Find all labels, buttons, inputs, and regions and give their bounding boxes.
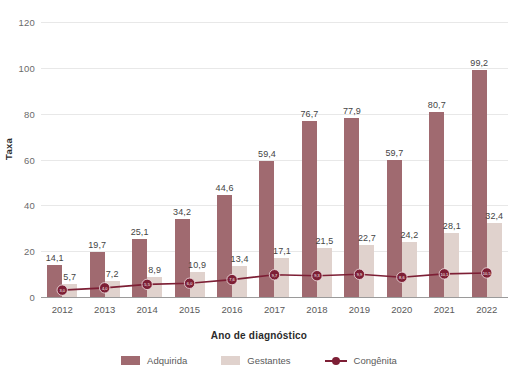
bar-gestantes[interactable]: 8,9 [147, 277, 162, 297]
legend-swatch-icon [221, 356, 240, 365]
bar-gestantes[interactable]: 32,4 [487, 223, 502, 297]
x-axis-tick-label: 2015 [179, 304, 200, 315]
legend-label: Adquirida [147, 355, 187, 366]
bar-gestantes[interactable]: 24,2 [402, 242, 417, 297]
bar-value-label: 25,1 [131, 227, 149, 237]
bar-value-label: 19,7 [88, 240, 106, 250]
bar-gestantes[interactable]: 17,1 [274, 258, 289, 297]
bar-value-label: 34,2 [173, 207, 191, 217]
bar-adquirida[interactable]: 44,6 [217, 195, 232, 297]
bar-value-label: 8,9 [148, 265, 161, 275]
bar-line-combo-chart: Taxa 020406080100120 14,15,7201219,77,22… [0, 0, 518, 380]
bar-group: 99,232,42022 [466, 22, 508, 297]
bar-group: 77,922,72019 [338, 22, 380, 297]
bar-value-label: 76,7 [300, 109, 318, 119]
bar-value-label: 24,2 [400, 230, 418, 240]
x-axis-tick-label: 2013 [94, 304, 115, 315]
bar-group: 14,15,72012 [41, 22, 83, 297]
legend-swatch-icon [121, 356, 140, 365]
bar-gestantes[interactable]: 22,7 [359, 245, 374, 297]
bar-adquirida[interactable]: 77,9 [344, 118, 359, 297]
legend-line-marker-icon [325, 356, 347, 365]
bar-value-label: 7,2 [106, 269, 119, 279]
y-axis-tick-label: 100 [19, 62, 35, 73]
bar-value-label: 80,7 [428, 100, 446, 110]
x-axis-tick-label: 2016 [221, 304, 242, 315]
bar-group: 59,417,12017 [253, 22, 295, 297]
y-axis-tick-label: 20 [24, 246, 35, 257]
bar-value-label: 10,9 [188, 260, 206, 270]
bar-gestantes[interactable]: 5,7 [62, 284, 77, 297]
bar-value-label: 13,4 [231, 254, 249, 264]
bar-value-label: 59,4 [258, 149, 276, 159]
y-axis-tick-label: 120 [19, 17, 35, 28]
x-axis-tick-label: 2018 [306, 304, 327, 315]
y-axis-title: Taxa [3, 138, 14, 160]
x-axis-tick-label: 2017 [264, 304, 285, 315]
x-axis-tick-label: 2012 [52, 304, 73, 315]
bar-group: 34,210,92015 [168, 22, 210, 297]
bar-gestantes[interactable]: 21,5 [317, 248, 332, 297]
bar-group: 76,721,52018 [296, 22, 338, 297]
bar-group: 25,18,92014 [126, 22, 168, 297]
bar-value-label: 5,7 [63, 272, 76, 282]
bar-value-label: 22,7 [358, 233, 376, 243]
legend-label: Congênita [354, 355, 397, 366]
bar-value-label: 14,1 [46, 253, 64, 263]
bar-value-label: 32,4 [485, 211, 503, 221]
bar-group: 80,728,12021 [423, 22, 465, 297]
bar-adquirida[interactable]: 76,7 [302, 121, 317, 297]
bar-value-label: 77,9 [343, 106, 361, 116]
y-axis-tick-label: 60 [24, 154, 35, 165]
legend-label: Gestantes [247, 355, 290, 366]
x-axis-title: Ano de diagnóstico [0, 330, 518, 341]
x-axis-baseline: 0 [41, 297, 508, 298]
bar-gestantes[interactable]: 10,9 [190, 272, 205, 297]
y-axis-tick-label: 40 [24, 200, 35, 211]
legend-item-adquirida[interactable]: Adquirida [121, 355, 187, 366]
bar-value-label: 44,6 [216, 183, 234, 193]
bar-adquirida[interactable]: 14,1 [47, 265, 62, 297]
y-axis-tick-label: 0 [30, 292, 35, 303]
y-axis-tick-label: 80 [24, 108, 35, 119]
bar-adquirida[interactable]: 59,4 [259, 161, 274, 297]
bar-gestantes[interactable]: 13,4 [232, 266, 247, 297]
bar-group: 59,724,22020 [381, 22, 423, 297]
bar-group-container: 14,15,7201219,77,2201325,18,9201434,210,… [41, 22, 508, 297]
legend-item-congênita[interactable]: Congênita [325, 355, 397, 366]
bar-adquirida[interactable]: 19,7 [90, 252, 105, 297]
legend-item-gestantes[interactable]: Gestantes [221, 355, 290, 366]
chart-legend: AdquiridaGestantesCongênita [0, 355, 518, 366]
bar-adquirida[interactable]: 99,2 [472, 70, 487, 297]
bar-adquirida[interactable]: 25,1 [132, 239, 147, 297]
bar-group: 44,613,42016 [211, 22, 253, 297]
bar-adquirida[interactable]: 80,7 [429, 112, 444, 297]
x-axis-tick-label: 2021 [434, 304, 455, 315]
bar-gestantes[interactable]: 28,1 [444, 233, 459, 297]
x-axis-tick-label: 2014 [137, 304, 158, 315]
x-axis-tick-label: 2020 [391, 304, 412, 315]
plot-area: 020406080100120 14,15,7201219,77,2201325… [41, 22, 508, 297]
x-axis-tick-label: 2019 [349, 304, 370, 315]
bar-value-label: 59,7 [385, 148, 403, 158]
bar-value-label: 28,1 [443, 221, 461, 231]
bar-adquirida[interactable]: 34,2 [175, 219, 190, 297]
bar-value-label: 17,1 [273, 246, 291, 256]
bar-gestantes[interactable]: 7,2 [105, 281, 120, 298]
x-axis-tick-label: 2022 [476, 304, 497, 315]
bar-value-label: 99,2 [470, 58, 488, 68]
bar-value-label: 21,5 [315, 236, 333, 246]
bar-group: 19,77,22013 [83, 22, 125, 297]
